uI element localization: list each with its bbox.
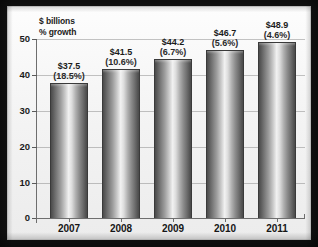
bar-top-sheen-2009 [155,60,191,63]
plot-area: $ billions % growth 50 40 30 20 10 0 $37… [7,6,311,240]
bar-growth-2008: (10.6%) [90,57,152,67]
x-tick-label-2009: 2009 [149,223,197,234]
x-axis-endcap-left [36,218,37,223]
bar-growth-2011: (4.6%) [246,30,308,40]
bar-group-2011: $48.9 (4.6%) [258,42,296,218]
x-tick-mark-2008 [121,218,122,222]
x-tick-label-2010: 2010 [201,223,249,234]
bar-top-sheen-2008 [103,70,139,73]
bar-group-2010: $46.7 (5.6%) [206,50,244,218]
bar-top-sheen-2011 [259,43,295,46]
x-tick-mark-2007 [69,218,70,222]
x-axis-line [36,218,305,219]
bar-2011[interactable] [258,42,296,218]
bar-group-2008: $41.5 (10.6%) [102,69,140,218]
bar-growth-2007: (18.5%) [38,71,100,81]
chart-frame: $ billions % growth 50 40 30 20 10 0 $37… [0,0,318,247]
bar-group-2009: $44.2 (6.7%) [154,59,192,218]
bar-group-2007: $37.5 (18.5%) [50,83,88,218]
x-tick-mark-2009 [173,218,174,222]
bar-2010[interactable] [206,50,244,218]
bar-growth-2009: (6.7%) [142,47,204,57]
bar-2008[interactable] [102,69,140,218]
x-tick-mark-2010 [225,218,226,222]
x-tick-label-2007: 2007 [45,223,93,234]
bar-top-sheen-2010 [207,51,243,54]
x-axis-endcap-right [304,214,305,219]
bar-value-2011: $48.9 [246,20,308,30]
x-tick-label-2011: 2011 [253,223,301,234]
x-tick-label-2008: 2008 [97,223,145,234]
bars-layer: $37.5 (18.5%) $41.5 (10.6%) $44.2 [8,7,311,240]
bar-callout-2011: $48.9 (4.6%) [246,20,308,40]
x-tick-mark-2011 [277,218,278,222]
bar-2009[interactable] [154,59,192,218]
bar-2007[interactable] [50,83,88,218]
bar-top-sheen-2007 [51,84,87,87]
